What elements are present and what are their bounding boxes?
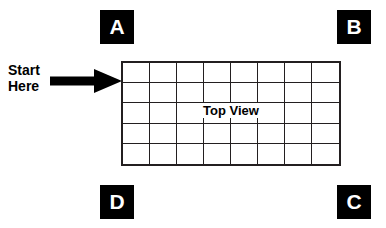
grid-cell [204, 103, 231, 123]
grid-cell [204, 63, 231, 83]
grid-cell [285, 83, 312, 103]
grid-cell [123, 83, 150, 103]
grid-cell [312, 103, 339, 123]
grid-cell [204, 124, 231, 144]
grid-cell [231, 83, 258, 103]
grid-cell [312, 124, 339, 144]
arrow-right-icon [50, 68, 122, 94]
diagram-canvas: A B D C Start Here [0, 0, 386, 228]
grid-cell [231, 124, 258, 144]
grid-cell [285, 103, 312, 123]
grid-cell [231, 144, 258, 164]
grid-cell [177, 144, 204, 164]
corner-label-a: A [100, 10, 134, 44]
grid-cell [312, 144, 339, 164]
grid-cell [123, 63, 150, 83]
grid-cell [285, 144, 312, 164]
grid-cell [258, 144, 285, 164]
grid-cell [231, 63, 258, 83]
grid-cell [285, 63, 312, 83]
grid-cell [177, 124, 204, 144]
grid-cell [258, 124, 285, 144]
grid-cell [123, 124, 150, 144]
grid-cell [285, 124, 312, 144]
grid-cell [177, 103, 204, 123]
grid-cell [204, 144, 231, 164]
grid-cell [177, 83, 204, 103]
grid-cell [177, 63, 204, 83]
start-here-label: Start Here [8, 62, 54, 94]
grid-cell [258, 103, 285, 123]
grid-cell [123, 144, 150, 164]
grid-cell [312, 63, 339, 83]
grid-cell [150, 103, 177, 123]
grid-cell [150, 63, 177, 83]
grid-cell [258, 63, 285, 83]
corner-label-d: D [100, 185, 134, 219]
top-view-grid [121, 61, 341, 166]
grid-cell [150, 144, 177, 164]
grid-cell [150, 83, 177, 103]
grid-cell [150, 124, 177, 144]
corner-label-c: C [337, 185, 371, 219]
grid-cell [231, 103, 258, 123]
grid-cell [312, 83, 339, 103]
grid-cell [204, 83, 231, 103]
grid-cell [258, 83, 285, 103]
grid-cell [123, 103, 150, 123]
corner-label-b: B [337, 10, 371, 44]
